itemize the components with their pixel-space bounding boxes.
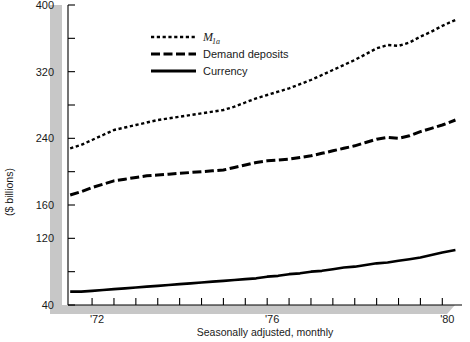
y-axis-shadow-bar (50, 5, 62, 312)
x-tick-label: '72 (90, 313, 104, 325)
chart-figure: 40120160240320400 '72'76'80 ($ billions)… (0, 0, 470, 342)
x-tick-label: '80 (440, 313, 454, 325)
x-axis-title: Seasonally adjusted, monthly (197, 326, 334, 338)
legend-label-demand-deposits: Demand deposits (203, 48, 289, 60)
x-axis-tick-labels: '72'76'80 (90, 313, 455, 325)
money-supply-line-chart: 40120160240320400 '72'76'80 ($ billions)… (0, 0, 470, 342)
chart-legend: M 1a Demand deposits Currency (151, 30, 289, 77)
legend-label-m1a-subscript: 1a (212, 37, 220, 46)
legend-item-m1a: M 1a (151, 30, 220, 46)
x-tick-label: '76 (265, 313, 279, 325)
x-axis-ticks (92, 298, 442, 305)
y-tick-label: 320 (36, 66, 54, 78)
legend-item-currency: Currency (151, 65, 248, 77)
y-axis-ticks (68, 5, 75, 305)
legend-item-demand-deposits: Demand deposits (151, 48, 289, 60)
chart-series-group (70, 20, 455, 292)
y-tick-label: 120 (36, 232, 54, 244)
y-tick-label: 160 (36, 199, 54, 211)
y-tick-label: 240 (36, 132, 54, 144)
series-line-m1a (70, 20, 455, 148)
x-axis-shadow-bar (50, 305, 455, 314)
y-axis-title: ($ billions) (3, 168, 15, 216)
y-tick-label: 40 (42, 299, 54, 311)
series-line-currency (70, 250, 455, 292)
y-tick-label: 400 (36, 0, 54, 11)
legend-label-currency: Currency (203, 65, 248, 77)
series-line-demand-deposits (70, 120, 455, 195)
